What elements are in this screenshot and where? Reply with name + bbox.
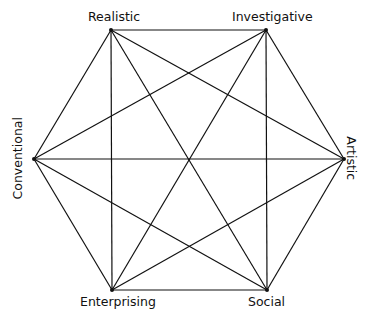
edge-S-C: [34, 159, 267, 290]
vertex-investigative: [264, 28, 268, 32]
label-artistic: Artistic: [345, 136, 358, 180]
vertex-realistic: [109, 28, 113, 32]
edge-E-C: [34, 159, 112, 290]
label-social: Social: [248, 296, 285, 309]
edge-C-R: [34, 30, 111, 159]
label-conventional: Conventional: [12, 117, 25, 199]
edge-A-S: [267, 159, 344, 290]
vertex-conventional: [32, 157, 36, 161]
edge-I-E: [112, 30, 266, 290]
vertex-enterprising: [110, 288, 114, 292]
edge-A-E: [112, 159, 344, 290]
vertex-social: [265, 288, 269, 292]
label-investigative: Investigative: [232, 11, 313, 24]
riasec-hexagon-diagram: [0, 0, 379, 321]
label-enterprising: Enterprising: [80, 296, 156, 309]
label-realistic: Realistic: [88, 11, 140, 24]
edge-I-C: [34, 30, 266, 159]
edge-I-S: [266, 30, 267, 290]
edge-I-A: [266, 30, 344, 159]
edge-R-E: [111, 30, 112, 290]
